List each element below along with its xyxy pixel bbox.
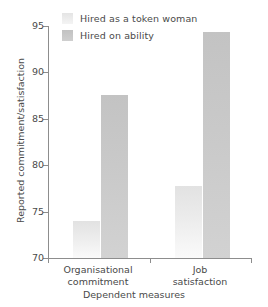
plot-area xyxy=(49,26,252,258)
category-line: commitment xyxy=(46,276,150,288)
legend-label: Hired as a token woman xyxy=(80,13,197,24)
bar xyxy=(101,95,128,258)
category-line: Job xyxy=(152,264,248,276)
x-axis-tick-start xyxy=(48,258,49,263)
y-axis-title: Reported commitment/satisfaction xyxy=(15,26,26,256)
legend-item-hired-as-a-token-woman: Hired as a token woman xyxy=(62,11,232,26)
x-axis-category-label-job-satisfaction: Job satisfaction xyxy=(152,264,248,288)
bar xyxy=(175,186,202,258)
x-axis-category-label-organisational-commitment: Organisational commitment xyxy=(46,264,150,288)
legend-swatch-icon-light xyxy=(62,13,73,24)
x-axis-tick-middle xyxy=(150,258,151,263)
bar xyxy=(73,221,100,258)
category-line: satisfaction xyxy=(152,276,248,288)
category-line: Organisational xyxy=(46,264,150,276)
bar-chart-figure: Hired as a token woman Hired on ability … xyxy=(0,0,268,307)
x-axis-tick-end xyxy=(251,258,252,263)
bar xyxy=(203,32,230,258)
x-axis-title: Dependent measures xyxy=(0,289,268,300)
